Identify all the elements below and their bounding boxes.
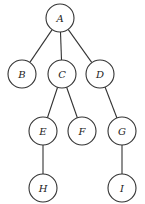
edges-group <box>30 29 122 174</box>
node-label: H <box>38 183 48 194</box>
node-d: D <box>86 60 114 88</box>
node-h: H <box>29 174 57 202</box>
node-a: A <box>46 4 74 32</box>
edge-a-d <box>68 29 92 62</box>
edge-d-g <box>105 87 117 118</box>
node-c: C <box>48 60 76 88</box>
node-label: C <box>58 69 66 80</box>
node-label: A <box>55 13 63 24</box>
edge-a-c <box>60 32 61 60</box>
node-f: F <box>68 117 96 145</box>
node-label: D <box>95 69 104 80</box>
node-i: I <box>108 174 136 202</box>
tree-diagram: ABCDEFGHI <box>0 0 145 204</box>
edge-c-f <box>67 87 78 118</box>
node-label: G <box>118 126 126 137</box>
node-label: B <box>17 69 25 80</box>
node-b: B <box>8 60 36 88</box>
node-label: F <box>78 126 87 137</box>
node-g: G <box>108 117 136 145</box>
node-e: E <box>29 117 57 145</box>
edge-c-e <box>47 87 57 117</box>
edge-a-b <box>30 30 52 63</box>
node-label: E <box>38 126 47 137</box>
